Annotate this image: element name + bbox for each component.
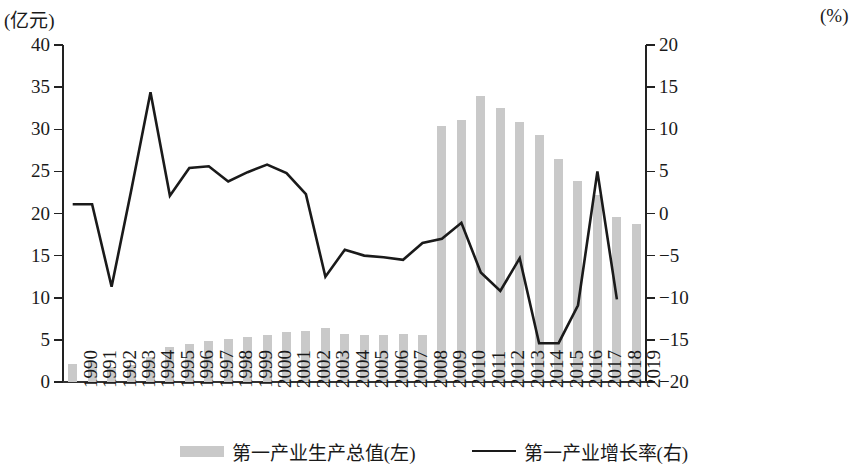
left-axis-unit-label: (亿元) (4, 5, 55, 32)
right-axis-tick (646, 255, 655, 257)
bar-swatch-icon (180, 446, 224, 457)
x-axis-tick-label: 2008 (431, 350, 450, 388)
x-axis-tick-label: 2009 (450, 350, 469, 388)
x-axis-tick-label: 1991 (100, 350, 119, 388)
x-axis-tick-label: 1996 (197, 350, 216, 388)
left-axis-tick-label: 20 (4, 204, 50, 223)
left-axis-tick (54, 213, 63, 215)
right-axis-tick-label: −10 (659, 288, 711, 307)
x-axis-tick-label: 2012 (508, 350, 527, 388)
left-axis-tick (54, 129, 63, 131)
line-series-layer (63, 45, 646, 382)
right-axis-tick (646, 297, 655, 299)
x-axis-tick-label: 1997 (217, 350, 236, 388)
left-axis-tick (54, 44, 63, 46)
x-axis-tick-label: 2017 (605, 350, 624, 388)
x-axis-tick-label: 2018 (625, 350, 644, 388)
x-axis-tick-label: 2014 (547, 350, 566, 388)
left-axis-tick (54, 86, 63, 88)
left-axis-tick-label: 25 (4, 161, 50, 180)
x-axis-tick-label: 2007 (411, 350, 430, 388)
x-axis-tick-label: 2019 (644, 350, 663, 388)
left-axis-tick-label: 30 (4, 119, 50, 138)
growth-rate-line-svg (63, 45, 646, 382)
right-axis-tick-label: 20 (659, 35, 711, 54)
right-axis-tick (646, 44, 655, 46)
x-axis-tick-label: 2002 (314, 350, 333, 388)
x-axis-tick-label: 1993 (139, 350, 158, 388)
x-axis-tick-label: 1992 (120, 350, 139, 388)
x-axis-tick-label: 1999 (256, 350, 275, 388)
left-axis-tick-label: 10 (4, 288, 50, 307)
right-axis-tick-label: 5 (659, 161, 711, 180)
left-axis-tick (54, 297, 63, 299)
left-axis-tick-label: 5 (4, 330, 50, 349)
right-axis-tick-label: 15 (659, 77, 711, 96)
x-axis-tick-label: 2006 (392, 350, 411, 388)
x-axis-tick-label: 2003 (333, 350, 352, 388)
right-axis-unit-label: (%) (820, 5, 848, 27)
x-axis-tick-label: 2005 (372, 350, 391, 388)
right-axis-tick-label: 10 (659, 119, 711, 138)
x-axis-tick-label: 2010 (469, 350, 488, 388)
right-axis-tick (646, 339, 655, 341)
right-axis-tick-label: −15 (659, 330, 711, 349)
left-axis-tick-label: 35 (4, 77, 50, 96)
line-swatch-icon (472, 450, 516, 452)
left-axis-tick-label: 15 (4, 246, 50, 265)
chart-container: (亿元) (%) 0510152025303540 −20−15−10−5051… (0, 0, 868, 467)
left-axis-tick (54, 381, 63, 383)
legend-label-growth-rate: 第一产业增长率(右) (524, 438, 689, 465)
x-axis-tick-label: 2016 (586, 350, 605, 388)
left-axis-tick (54, 255, 63, 257)
x-axis-tick-label: 1995 (178, 350, 197, 388)
legend-item-growth-rate: 第一产业增长率(右) (472, 438, 689, 465)
x-axis-tick-label: 1994 (158, 350, 177, 388)
x-axis-tick-label: 2000 (275, 350, 294, 388)
x-axis-tick-label: 2004 (353, 350, 372, 388)
x-axis-tick-label: 2011 (489, 351, 508, 388)
x-axis-tick-label: 2015 (567, 350, 586, 388)
left-axis-tick-label: 40 (4, 35, 50, 54)
legend-label-total-output: 第一产业生产总值(左) (232, 438, 416, 465)
right-axis-tick (646, 213, 655, 215)
left-axis-tick (54, 339, 63, 341)
x-axis-tick-label: 2001 (294, 350, 313, 388)
right-axis-tick (646, 86, 655, 88)
right-axis-tick-label: −5 (659, 246, 711, 265)
right-axis-tick (646, 129, 655, 131)
x-axis-tick-label: 1998 (236, 350, 255, 388)
right-axis-tick-label: 0 (659, 204, 711, 223)
x-axis-tick-label: 1990 (81, 350, 100, 388)
left-axis-tick (54, 171, 63, 173)
left-axis-tick-label: 0 (4, 372, 50, 391)
x-axis-tick-label: 2013 (528, 350, 547, 388)
legend-item-total-output: 第一产业生产总值(左) (180, 438, 416, 465)
right-axis-tick (646, 171, 655, 173)
right-axis-tick-label: −20 (659, 372, 711, 391)
chart-legend: 第一产业生产总值(左) 第一产业增长率(右) (0, 437, 868, 465)
